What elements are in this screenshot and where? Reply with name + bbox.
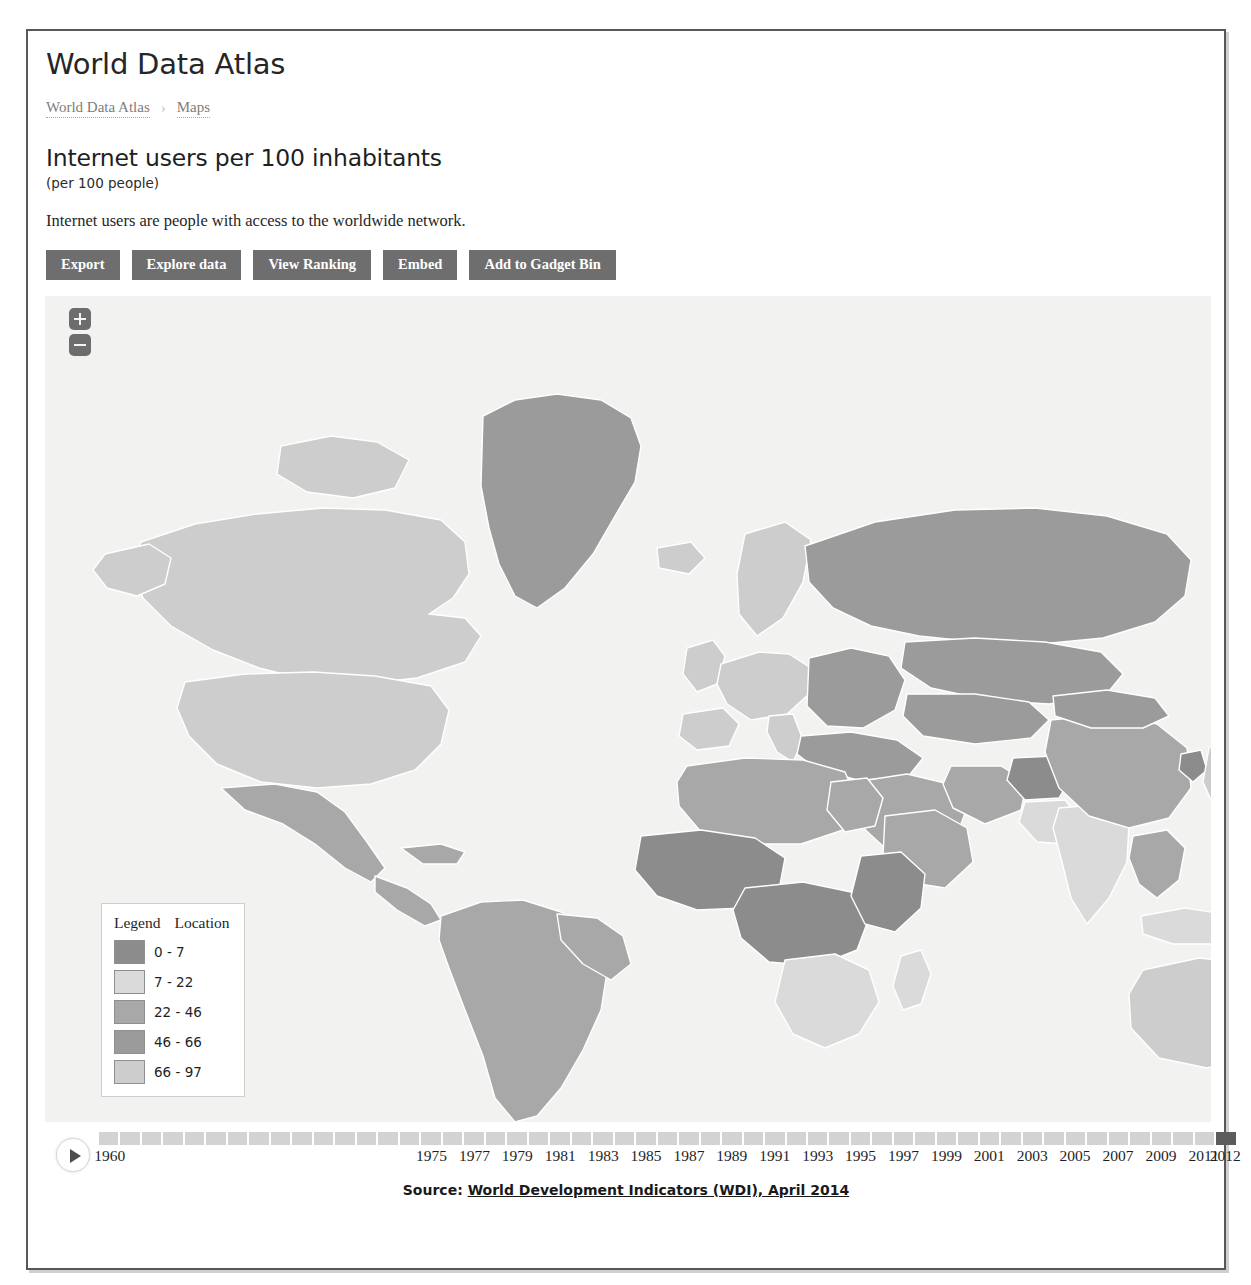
legend-row[interactable]: 46 - 66 (114, 1030, 230, 1054)
timeline-tick-1988[interactable] (701, 1132, 720, 1145)
region-canada-arctic (277, 436, 409, 498)
year-label-1997[interactable]: 1997 (888, 1147, 919, 1165)
embed-button[interactable]: Embed (383, 250, 457, 280)
timeline-tick-1976[interactable] (443, 1132, 462, 1145)
timeline-tick-1987[interactable] (679, 1132, 698, 1145)
timeline-tick-1970[interactable] (314, 1132, 333, 1145)
breadcrumb-item-maps[interactable]: Maps (177, 99, 210, 118)
timeline-tick-1961[interactable] (120, 1132, 139, 1145)
year-label-1983[interactable]: 1983 (588, 1147, 619, 1165)
year-label-2001[interactable]: 2001 (974, 1147, 1005, 1165)
timeline-tick-2005[interactable] (1066, 1132, 1085, 1145)
legend-row[interactable]: 0 - 7 (114, 940, 230, 964)
year-label-1979[interactable]: 1979 (502, 1147, 533, 1165)
timeline-tick-1979[interactable] (507, 1132, 526, 1145)
timeline-tick-1962[interactable] (142, 1132, 161, 1145)
export-button[interactable]: Export (46, 250, 120, 280)
year-label-1995[interactable]: 1995 (845, 1147, 876, 1165)
play-button[interactable] (56, 1138, 90, 1172)
timeline-tick-1966[interactable] (228, 1132, 247, 1145)
year-label-1960[interactable]: 1960 (94, 1147, 125, 1165)
timeline-tick-1964[interactable] (185, 1132, 204, 1145)
timeline-tick-1972[interactable] (357, 1132, 376, 1145)
explore-data-button[interactable]: Explore data (132, 250, 242, 280)
year-label-1985[interactable]: 1985 (631, 1147, 662, 1165)
timeline-tick-1983[interactable] (593, 1132, 612, 1145)
legend-row[interactable]: 66 - 97 (114, 1060, 230, 1084)
zoom-out-icon[interactable] (69, 334, 91, 356)
timeline-tick-1990[interactable] (744, 1132, 763, 1145)
timeline-tick-1960[interactable] (99, 1132, 118, 1145)
timeline-tick-2000[interactable] (958, 1132, 977, 1145)
timeline-tick-1992[interactable] (787, 1132, 806, 1145)
map-legend: Legend Location 0 - 7 7 - 22 22 - 46 (101, 903, 245, 1097)
breadcrumb-item-world-data-atlas[interactable]: World Data Atlas (46, 99, 150, 118)
year-label-1981[interactable]: 1981 (545, 1147, 576, 1165)
timeline-tick-1997[interactable] (894, 1132, 913, 1145)
timeline-tick-1991[interactable] (765, 1132, 784, 1145)
year-label-1987[interactable]: 1987 (673, 1147, 704, 1165)
timeline-tick-1999[interactable] (937, 1132, 956, 1145)
legend-header-legend: Legend (114, 914, 160, 932)
timeline-tick-1969[interactable] (292, 1132, 311, 1145)
timeline-tick-1968[interactable] (271, 1132, 290, 1145)
timeline-track[interactable]: 1960197519771979198119831985198719891991… (99, 1132, 1236, 1169)
timeline-tick-2012[interactable] (1216, 1132, 1235, 1145)
source-link[interactable]: World Development Indicators (WDI), Apri… (468, 1182, 850, 1198)
timeline-tick-2003[interactable] (1023, 1132, 1042, 1145)
timeline-tick-1974[interactable] (400, 1132, 419, 1145)
year-label-1975[interactable]: 1975 (416, 1147, 447, 1165)
timeline-tick-1965[interactable] (206, 1132, 225, 1145)
timeline-tick-2010[interactable] (1173, 1132, 1192, 1145)
timeline-tick-1984[interactable] (615, 1132, 634, 1145)
timeline-tick-1986[interactable] (658, 1132, 677, 1145)
year-label-2007[interactable]: 2007 (1103, 1147, 1134, 1165)
timeline-tick-1973[interactable] (378, 1132, 397, 1145)
timeline-tick-1989[interactable] (722, 1132, 741, 1145)
year-label-2012[interactable]: 2012 (1210, 1147, 1241, 1165)
year-label-2005[interactable]: 2005 (1060, 1147, 1091, 1165)
region-eastern-europe (807, 648, 905, 728)
timeline-tick-1993[interactable] (808, 1132, 827, 1145)
year-label-1991[interactable]: 1991 (759, 1147, 790, 1165)
source-line: Source: World Development Indicators (WD… (44, 1182, 1208, 1198)
choropleth-map[interactable]: Legend Location 0 - 7 7 - 22 22 - 46 (45, 296, 1211, 1122)
year-label-2009[interactable]: 2009 (1145, 1147, 1176, 1165)
timeline-tick-2002[interactable] (1001, 1132, 1020, 1145)
timeline-tick-1967[interactable] (249, 1132, 268, 1145)
year-label-1993[interactable]: 1993 (802, 1147, 833, 1165)
timeline-tick-1963[interactable] (163, 1132, 182, 1145)
legend-row[interactable]: 22 - 46 (114, 1000, 230, 1024)
year-label-2003[interactable]: 2003 (1017, 1147, 1048, 1165)
timeline-tick-1980[interactable] (529, 1132, 548, 1145)
year-label-1999[interactable]: 1999 (931, 1147, 962, 1165)
timeline-tick-1994[interactable] (829, 1132, 848, 1145)
timeline-tick-1981[interactable] (550, 1132, 569, 1145)
timeline-tick-1996[interactable] (872, 1132, 891, 1145)
legend-label-bin-2: 7 - 22 (154, 974, 193, 990)
timeline-tick-2006[interactable] (1087, 1132, 1106, 1145)
timeline-tick-1978[interactable] (486, 1132, 505, 1145)
legend-row[interactable]: 7 - 22 (114, 970, 230, 994)
zoom-in-icon[interactable] (69, 308, 91, 330)
timeline-tick-1982[interactable] (572, 1132, 591, 1145)
timeline-tick-2001[interactable] (980, 1132, 999, 1145)
timeline-ticks[interactable] (99, 1132, 1236, 1145)
view-ranking-button[interactable]: View Ranking (253, 250, 371, 280)
year-label-1977[interactable]: 1977 (459, 1147, 490, 1165)
timeline-tick-1998[interactable] (915, 1132, 934, 1145)
timeline-tick-2004[interactable] (1044, 1132, 1063, 1145)
add-to-gadget-bin-button[interactable]: Add to Gadget Bin (469, 250, 615, 280)
timeline-tick-1995[interactable] (851, 1132, 870, 1145)
region-madagascar (893, 950, 931, 1010)
timeline-tick-1977[interactable] (464, 1132, 483, 1145)
year-label-1989[interactable]: 1989 (716, 1147, 747, 1165)
timeline-tick-1985[interactable] (636, 1132, 655, 1145)
timeline-tick-2009[interactable] (1152, 1132, 1171, 1145)
timeline-tick-2011[interactable] (1195, 1132, 1214, 1145)
year-timeline[interactable]: 1960197519771979198119831985198719891991… (56, 1132, 1236, 1172)
timeline-tick-1971[interactable] (335, 1132, 354, 1145)
timeline-tick-1975[interactable] (421, 1132, 440, 1145)
timeline-tick-2007[interactable] (1109, 1132, 1128, 1145)
timeline-tick-2008[interactable] (1130, 1132, 1149, 1145)
